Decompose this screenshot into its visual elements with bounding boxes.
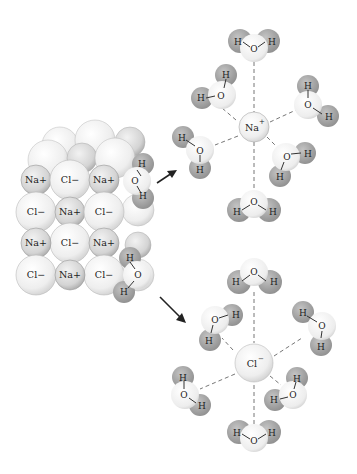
- ion-label: Cl−: [95, 269, 113, 280]
- svg-text:H: H: [178, 133, 186, 143]
- svg-text:O: O: [134, 270, 141, 280]
- svg-text:O: O: [131, 176, 138, 186]
- svg-text:H: H: [304, 149, 312, 159]
- svg-text:+: +: [259, 118, 265, 126]
- nacl-dissolution-diagram: Na+ Cl− Na+ Cl− Na+ Cl− Cl− Na+ Na+ Cl: [0, 0, 357, 474]
- water-molecule: H O H: [227, 258, 282, 294]
- sodium-ion: Na +: [239, 112, 269, 142]
- svg-text:H: H: [276, 172, 284, 182]
- svg-text:O: O: [304, 100, 311, 110]
- svg-text:O: O: [250, 267, 257, 277]
- ion-label: Na+: [93, 237, 115, 248]
- arrow-to-cation: [157, 170, 177, 183]
- svg-text:O: O: [196, 146, 203, 156]
- svg-text:H: H: [205, 336, 213, 346]
- svg-text:O: O: [318, 321, 325, 331]
- water-molecule: H O H: [264, 367, 308, 411]
- svg-text:H: H: [232, 277, 240, 287]
- water-molecule: H O H: [227, 420, 281, 452]
- svg-text:O: O: [211, 315, 218, 325]
- svg-text:H: H: [269, 207, 277, 217]
- svg-text:O: O: [289, 390, 296, 400]
- svg-text:O: O: [180, 390, 187, 400]
- svg-text:H: H: [325, 112, 333, 122]
- water-molecule: H O H: [199, 304, 243, 351]
- svg-text:H: H: [198, 401, 206, 411]
- svg-text:H: H: [268, 428, 276, 438]
- svg-text:H: H: [299, 308, 307, 318]
- svg-text:H: H: [270, 277, 278, 287]
- svg-text:H: H: [293, 374, 301, 384]
- svg-text:H: H: [222, 70, 230, 80]
- nacl-crystal: Na+ Cl− Na+ Cl− Na+ Cl− Cl− Na+ Na+ Cl: [16, 120, 154, 303]
- svg-text:H: H: [179, 373, 187, 383]
- ion-label: Na+: [59, 269, 81, 280]
- ion-label: Cl−: [27, 269, 45, 280]
- svg-text:H: H: [317, 342, 325, 352]
- ion-label: Cl−: [95, 206, 113, 217]
- water-molecule: H O H: [227, 190, 281, 222]
- hydrated-chloride-ion: H O H H O H H O H Cl: [171, 258, 336, 452]
- svg-text:Cl: Cl: [247, 358, 257, 369]
- svg-text:H: H: [197, 93, 205, 103]
- svg-text:Na: Na: [245, 122, 259, 133]
- water-molecule: H O H: [171, 366, 211, 416]
- ion-label: Cl−: [61, 174, 79, 185]
- svg-text:O: O: [250, 44, 257, 54]
- water-molecule: H O H: [228, 29, 280, 62]
- water-molecule: H O H: [292, 301, 336, 356]
- svg-text:O: O: [217, 91, 224, 101]
- ion-label: Na+: [93, 174, 115, 185]
- ion-label: Na+: [25, 174, 47, 185]
- svg-text:H: H: [270, 395, 278, 405]
- ion-label: Cl−: [27, 206, 45, 217]
- svg-text:H: H: [138, 159, 146, 169]
- svg-text:H: H: [126, 253, 134, 263]
- svg-text:H: H: [233, 207, 241, 217]
- ion-label: Cl−: [61, 237, 79, 248]
- water-molecule: H O H: [172, 126, 214, 179]
- svg-text:H: H: [196, 165, 204, 175]
- svg-text:H: H: [304, 81, 312, 91]
- hydrated-sodium-ion: H O H H O H H O H Na: [172, 29, 339, 222]
- crystal-row-4: Cl− Cl− Na+: [16, 255, 124, 295]
- svg-text:H: H: [232, 310, 240, 320]
- svg-text:−: −: [258, 355, 264, 363]
- svg-text:H: H: [120, 287, 128, 297]
- svg-text:O: O: [250, 197, 257, 207]
- ion-label: Na+: [25, 237, 47, 248]
- svg-text:O: O: [250, 436, 257, 446]
- svg-text:H: H: [233, 428, 241, 438]
- water-molecule: H O H: [191, 64, 237, 109]
- arrow-to-anion: [160, 297, 186, 323]
- svg-text:H: H: [139, 191, 147, 201]
- ion-label: Na+: [59, 206, 81, 217]
- chloride-ion: Cl −: [235, 344, 273, 382]
- water-molecule: H O H: [269, 142, 316, 187]
- water-molecule: H O H: [294, 75, 339, 127]
- svg-text:H: H: [234, 37, 242, 47]
- svg-text:H: H: [268, 37, 276, 47]
- svg-text:O: O: [283, 152, 290, 162]
